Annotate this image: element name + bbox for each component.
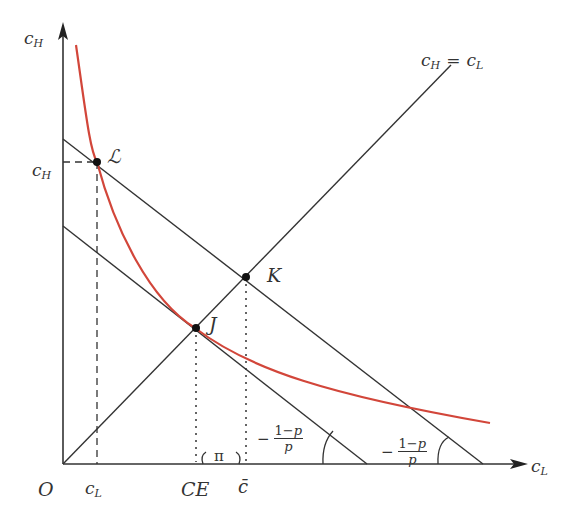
point-K-label: K [267,266,281,285]
lower-slope-label: − 1−pp [257,423,303,454]
risk-premium-label: π [214,449,224,464]
y-axis-label: cH [24,30,43,49]
point-L-label: ℒ [107,147,121,166]
upper-angle-arc [438,437,449,464]
cH-tick-label: cH [32,162,51,181]
origin-label: O [38,480,54,499]
cL-tick-label: cL [85,480,102,499]
point-J [192,324,200,332]
point-J-label: J [209,315,217,334]
insurance-diagram: cH cL O cH=cL ℒ J K cH cL CE c̄ π − 1−pp… [0,0,578,516]
indifference-curve [76,45,490,423]
lower-budget-line [63,226,367,464]
point-L [93,158,101,166]
certainty-line-label: cH=cL [421,52,483,71]
x-axis-label: cL [531,458,548,477]
pi-left-bracket [202,452,206,464]
point-K [242,273,250,281]
cbar-tick-label: c̄ [238,478,248,496]
upper-budget-line [63,139,483,464]
upper-slope-label: − 1−pp [381,436,427,467]
CE-tick-label: CE [181,480,209,499]
pi-right-bracket [236,452,240,464]
